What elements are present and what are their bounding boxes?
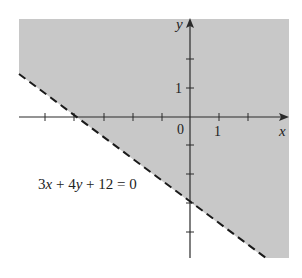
x-tick-label-1: 1 [214, 124, 221, 139]
origin-label: 0 [177, 122, 184, 137]
inequality-graph: y x 0 1 1 3x + 4y + 12 = 0 [0, 0, 302, 278]
x-axis-label: x [278, 123, 286, 139]
equation-annotation: 3x + 4y + 12 = 0 [38, 176, 137, 192]
y-tick-label-1: 1 [175, 81, 182, 96]
y-axis-label: y [174, 16, 183, 32]
shaded-region [19, 19, 289, 258]
